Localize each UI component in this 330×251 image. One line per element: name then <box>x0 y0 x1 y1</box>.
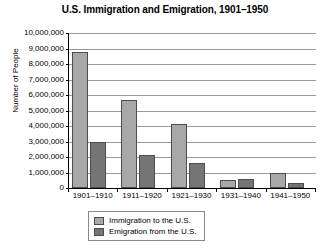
y-axis-tick-label: 6,000,000 <box>2 91 64 99</box>
x-axis-tick-labels: 1901–19101911–19201921–19301931–19401941… <box>68 191 315 203</box>
y-axis-tick-label: 1,000,000 <box>2 169 64 177</box>
x-axis-tick-label: 1911–1920 <box>117 191 166 200</box>
chart-legend: Immigration to the U.S.Emigration from t… <box>88 211 205 241</box>
x-axis-tick-label: 1941–1950 <box>266 191 315 200</box>
x-axis-tick-label: 1901–1910 <box>68 191 117 200</box>
plot-area <box>68 33 316 189</box>
bar-emigration[interactable] <box>90 142 106 189</box>
x-axis-tick-label: 1931–1940 <box>216 191 265 200</box>
x-axis-tick-mark <box>315 189 316 192</box>
y-axis-tick-label: 4,000,000 <box>2 122 64 130</box>
bar-group <box>217 33 266 188</box>
legend-swatch-icon <box>94 228 104 236</box>
bar-group <box>267 33 316 188</box>
bar-immigration[interactable] <box>121 100 137 188</box>
y-axis-tick-label: 9,000,000 <box>2 45 64 53</box>
bar-immigration[interactable] <box>220 180 236 188</box>
y-axis-tick-labels: 01,000,0002,000,0003,000,0004,000,0005,0… <box>0 33 64 188</box>
x-axis-tick-label: 1921–1930 <box>167 191 216 200</box>
chart-title: U.S. Immigration and Emigration, 1901–19… <box>0 4 330 15</box>
y-axis-tick-label: 10,000,000 <box>2 29 64 37</box>
bar-group <box>168 33 217 188</box>
bar-immigration[interactable] <box>171 124 187 188</box>
bar-immigration[interactable] <box>72 52 88 188</box>
y-axis-tick-label: 2,000,000 <box>2 153 64 161</box>
bar-group <box>118 33 167 188</box>
bar-emigration[interactable] <box>288 183 304 188</box>
bar-emigration[interactable] <box>238 179 254 188</box>
y-axis-tick-label: 8,000,000 <box>2 60 64 68</box>
y-axis-tick-label: 3,000,000 <box>2 138 64 146</box>
legend-item[interactable]: Immigration to the U.S. <box>94 215 197 226</box>
y-axis-tick-label: 5,000,000 <box>2 107 64 115</box>
bar-emigration[interactable] <box>189 163 205 188</box>
legend-swatch-icon <box>94 217 104 225</box>
legend-label: Emigration from the U.S. <box>109 227 197 236</box>
bars-layer <box>69 33 316 188</box>
bar-group <box>69 33 118 188</box>
legend-item[interactable]: Emigration from the U.S. <box>94 226 197 237</box>
y-axis-tick-label: 7,000,000 <box>2 76 64 84</box>
legend-label: Immigration to the U.S. <box>109 216 191 225</box>
bar-immigration[interactable] <box>270 173 286 189</box>
y-axis-tick-label: 0 <box>2 184 64 192</box>
chart-figure: U.S. Immigration and Emigration, 1901–19… <box>0 0 330 251</box>
bar-emigration[interactable] <box>139 155 155 188</box>
